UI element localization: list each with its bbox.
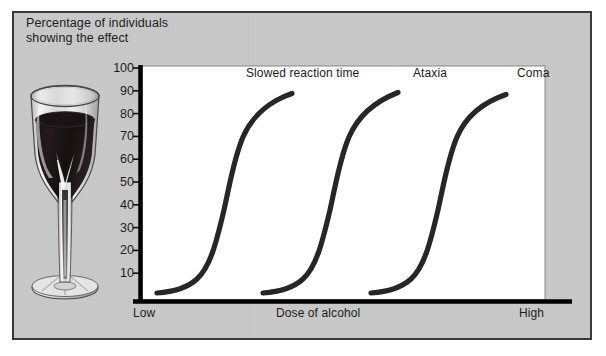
axis-title-line-1: Percentage of individuals: [26, 16, 168, 30]
chart-axis-title: Percentage of individualsshowing the eff…: [26, 16, 168, 46]
axis-title-line-2: showing the effect: [26, 31, 128, 45]
series-label-coma: Coma: [517, 66, 549, 80]
chart-container: 100 90 80 70 60 50 40 30 20 10: [100, 58, 580, 320]
x-axis-label-low: Low: [133, 306, 155, 320]
x-axis-label-high: High: [519, 306, 544, 320]
plot-area: [100, 58, 580, 320]
figure-root: Percentage of individualsshowing the eff…: [0, 0, 606, 356]
wine-glass-illustration: [18, 60, 112, 310]
series-label-ataxia: Ataxia: [413, 66, 447, 80]
wine-glass-icon: [18, 60, 112, 310]
x-axis-label-dose: Dose of alcohol: [276, 306, 360, 320]
series-label-slowed-reaction-time: Slowed reaction time: [246, 66, 359, 80]
